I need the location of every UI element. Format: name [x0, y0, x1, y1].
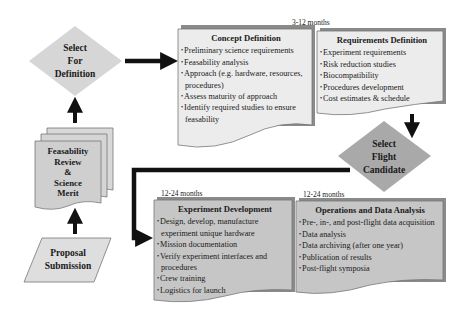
- label-line: Feasability: [35, 146, 101, 157]
- list-item: Identify required studies to ensure feas…: [181, 102, 311, 125]
- list-item: Publication of results: [299, 252, 441, 263]
- list-item: Procedures development: [320, 82, 444, 93]
- list-item: Pre-, in-, and post-flight data acquisit…: [299, 217, 441, 228]
- list-item: Preliminary science requirements: [181, 45, 311, 56]
- experiment-development-title: Experiment Development: [157, 204, 293, 215]
- label-line: Merit: [35, 188, 101, 199]
- list-item: Mission documentation: [157, 239, 293, 250]
- label-line: Definition: [44, 68, 106, 81]
- list-item: Design, develop, manufacture experiment …: [157, 216, 293, 239]
- label-line: &: [35, 167, 101, 178]
- label-line: Science: [35, 178, 101, 189]
- operations-data-analysis-title: Operations and Data Analysis: [299, 205, 441, 216]
- list-item: Experiment requirements: [320, 47, 444, 58]
- list-item: Crew training: [157, 273, 293, 284]
- list-item: Biocompatibility: [320, 70, 444, 81]
- list-item: Approach (e.g. hardware, resources, proc…: [181, 68, 311, 91]
- list-item: Assess maturity of approach: [181, 91, 311, 102]
- select-for-definition-label: Select For Definition: [44, 42, 106, 81]
- experiment-duration: 12-24 months: [161, 189, 202, 198]
- proposal-submission-label: Proposal Submission: [34, 247, 102, 273]
- requirements-definition-title: Requirements Definition: [320, 35, 444, 46]
- label-line: Select: [352, 138, 416, 151]
- label-line: Select: [44, 42, 106, 55]
- list-item: Cost estimates & schedule: [320, 93, 444, 104]
- experiment-development-box: Experiment Development Design, develop, …: [157, 204, 293, 296]
- list-item: Post-flight symposia: [299, 263, 441, 274]
- select-flight-candidate-label: Select Flight Candidate: [352, 138, 416, 177]
- concept-definition-title: Concept Definition: [181, 33, 311, 44]
- operations-duration: 12-24 months: [303, 190, 344, 199]
- list-item: Verify experiment interfaces and procedu…: [157, 251, 293, 274]
- definition-duration: 3-12 months: [292, 18, 330, 27]
- label-line: Proposal: [34, 247, 102, 260]
- label-line: Submission: [34, 260, 102, 273]
- operations-data-analysis-box: Operations and Data Analysis Pre-, in-, …: [299, 205, 441, 274]
- label-line: Review: [35, 157, 101, 168]
- label-line: Flight: [352, 151, 416, 164]
- list-item: Logistics for launch: [157, 285, 293, 296]
- requirements-definition-box: Requirements Definition Experiment requi…: [320, 35, 444, 104]
- label-line: For: [44, 55, 106, 68]
- list-item: Data analysis: [299, 229, 441, 240]
- list-item: Risk reduction studies: [320, 59, 444, 70]
- feasibility-review-label: Feasability Review & Science Merit: [35, 146, 101, 199]
- list-item: Feasability analysis: [181, 57, 311, 68]
- concept-definition-box: Concept Definition Preliminary science r…: [181, 33, 311, 125]
- label-line: Candidate: [352, 164, 416, 177]
- list-item: Data archiving (after one year): [299, 240, 441, 251]
